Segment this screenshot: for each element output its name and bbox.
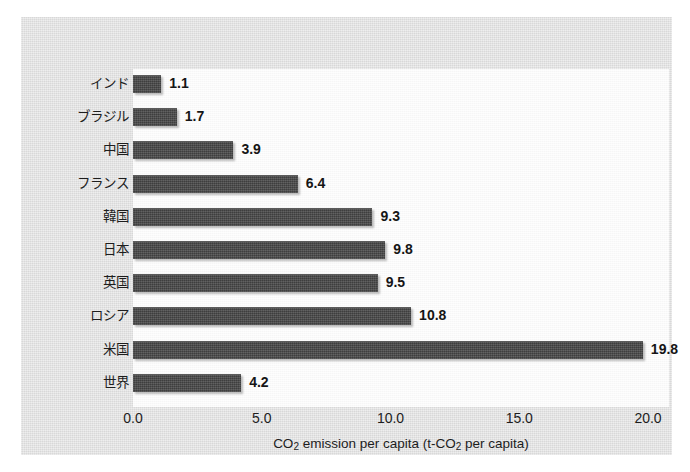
bar-row: 3.9 [133,141,669,158]
bar-value-label: 9.3 [380,207,399,225]
category-label: 英国 [33,274,129,291]
category-label: フランス [33,175,129,192]
bar-row: 6.4 [133,175,669,192]
bar-row: 1.7 [133,108,669,125]
category-axis-labels: インドブラジル中国フランス韓国日本英国ロシア米国世界 [29,69,129,407]
x-tick-label: 5.0 [227,410,297,426]
x-tick-label: 20.0 [613,410,683,426]
bar-row: 9.5 [133,274,669,291]
axis-title-subscript: 2 [293,441,299,452]
bar-row: 9.3 [133,208,669,225]
bar-row: 10.8 [133,307,669,324]
chart-panel: インドブラジル中国フランス韓国日本英国ロシア米国世界 1.11.73.96.49… [21,17,672,455]
axis-title-text: CO [273,436,293,451]
bar[interactable] [133,241,385,259]
category-label: 中国 [33,141,129,158]
category-label: 韓国 [33,208,129,225]
x-tick-label: 10.0 [356,410,426,426]
category-label: 日本 [33,241,129,258]
bar[interactable] [133,374,241,392]
bar-value-label: 4.2 [249,373,268,391]
bar[interactable] [133,341,643,359]
category-label: 米国 [33,341,129,358]
bars-layer: 1.11.73.96.49.39.89.510.819.84.2 [133,69,669,407]
x-tick-label: 0.0 [98,410,168,426]
bar[interactable] [133,307,411,325]
bar[interactable] [133,175,298,193]
bar[interactable] [133,75,161,93]
axis-title-text: per capita) [461,436,529,451]
bar-value-label: 10.8 [419,306,446,324]
bar-row: 19.8 [133,341,669,358]
bar-row: 1.1 [133,75,669,92]
bar-value-label: 9.8 [393,240,412,258]
bar-row: 9.8 [133,241,669,258]
x-axis-tick-labels: 0.05.010.015.020.0 [133,410,669,432]
bar-row: 4.2 [133,374,669,391]
bar[interactable] [133,208,372,226]
axis-title-subscript: 2 [456,441,462,452]
bar-value-label: 9.5 [386,273,405,291]
category-label: ブラジル [33,108,129,125]
category-label: インド [33,75,129,92]
bar[interactable] [133,274,378,292]
category-label: 世界 [33,374,129,391]
x-tick-label: 15.0 [484,410,554,426]
category-label: ロシア [33,307,129,324]
chart-figure: インドブラジル中国フランス韓国日本英国ロシア米国世界 1.11.73.96.49… [0,0,690,472]
axis-title-text: emission per capita (t-CO [299,436,456,451]
bar-value-label: 1.1 [169,74,188,92]
bar-value-label: 19.8 [651,340,678,358]
bar-value-label: 6.4 [306,174,325,192]
x-axis-title: CO2 emission per capita (t-CO2 per capit… [133,436,669,451]
bar-value-label: 1.7 [185,107,204,125]
bar[interactable] [133,108,177,126]
bar[interactable] [133,141,233,159]
bar-value-label: 3.9 [241,140,260,158]
